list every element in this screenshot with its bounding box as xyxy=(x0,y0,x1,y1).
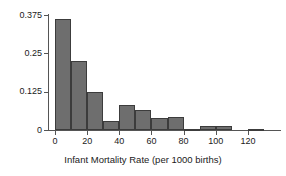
histogram-bar xyxy=(168,117,184,130)
histogram-bar xyxy=(55,19,71,130)
histogram-bar xyxy=(135,110,151,130)
y-axis-tick xyxy=(44,130,48,131)
x-axis-line xyxy=(48,130,281,131)
histogram-bar xyxy=(71,61,87,130)
x-axis-tick-label: 20 xyxy=(82,137,92,146)
y-axis-line xyxy=(48,14,49,131)
histogram-bar xyxy=(216,126,232,130)
y-axis-tick-label-wrap: 0.375 xyxy=(0,11,42,20)
x-axis-tick-label: 60 xyxy=(146,137,156,146)
y-axis-tick-label: 0 xyxy=(37,126,42,135)
x-axis-title: Infant Mortality Rate (per 1000 births) xyxy=(0,154,286,165)
plot-area: 0.3750.250.1250 020406080100120 xyxy=(0,0,286,176)
y-axis-tick-label: 0.375 xyxy=(19,11,42,20)
y-axis-tick-label-wrap: 0 xyxy=(0,126,42,135)
histogram-bar xyxy=(184,129,200,131)
y-axis-tick xyxy=(44,92,48,93)
histogram-bar xyxy=(119,105,135,130)
y-axis-tick xyxy=(44,53,48,54)
x-axis-tick-label: 80 xyxy=(179,137,189,146)
x-axis-tick xyxy=(55,131,56,135)
y-axis-tick-label: 0.125 xyxy=(19,87,42,96)
histogram-figure: 0.3750.250.1250 020406080100120 Infant M… xyxy=(0,0,286,176)
histogram-bar xyxy=(200,126,216,130)
x-axis-tick-label: 0 xyxy=(52,137,57,146)
x-axis-tick-label: 40 xyxy=(114,137,124,146)
x-axis-tick-label: 100 xyxy=(208,137,223,146)
x-axis-tick xyxy=(119,131,120,135)
x-axis-tick xyxy=(216,131,217,135)
x-axis-tick xyxy=(184,131,185,135)
x-axis-tick xyxy=(151,131,152,135)
x-axis-tick-label: 120 xyxy=(240,137,255,146)
x-axis-tick xyxy=(248,131,249,135)
y-axis-tick xyxy=(44,15,48,16)
y-axis-tick-label-wrap: 0.25 xyxy=(0,49,42,58)
histogram-bar xyxy=(103,121,119,130)
x-axis-tick xyxy=(87,131,88,135)
histogram-bar xyxy=(87,92,103,130)
histogram-bar xyxy=(151,118,167,130)
histogram-bar xyxy=(248,129,264,131)
y-axis-tick-label-wrap: 0.125 xyxy=(0,87,42,96)
y-axis-tick-label: 0.25 xyxy=(24,49,42,58)
